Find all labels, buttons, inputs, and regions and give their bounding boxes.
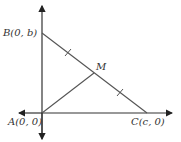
label-m: M [96,62,106,72]
label-c: C(c, 0) [131,117,165,127]
tick-mark-mc [117,89,123,96]
segment-am [42,73,94,113]
label-a: A(0, 0) [8,117,42,127]
label-b: B(0, b) [3,28,37,38]
diagram-canvas: B(0, b) M A(0, 0) C(c, 0) [0,0,181,142]
